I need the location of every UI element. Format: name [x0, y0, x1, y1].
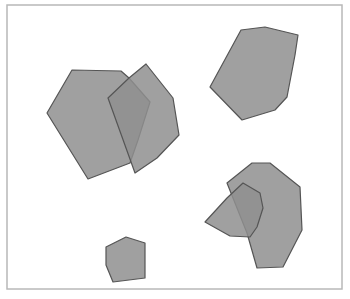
polygon-bottom-right-small	[205, 183, 263, 237]
octagon-top-right	[210, 27, 298, 120]
shape-layer	[47, 27, 302, 282]
shapes-canvas	[0, 0, 350, 299]
pentagon-bottom-small	[106, 237, 145, 282]
